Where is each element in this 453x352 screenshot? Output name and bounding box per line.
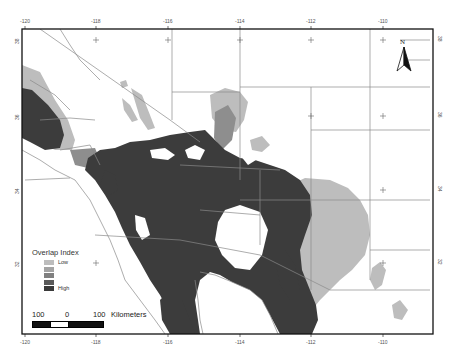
legend-item: High xyxy=(44,286,100,292)
legend-item xyxy=(44,280,100,286)
legend-swatch xyxy=(44,260,54,265)
legend-swatch xyxy=(44,267,54,272)
scale-unit: Kilometers xyxy=(111,310,146,319)
scale-bar: 100 0 100 Kilometers xyxy=(32,310,162,328)
north-label: N xyxy=(400,38,405,46)
lon-tick-label: -110 xyxy=(378,18,388,24)
scale-label-zero: 0 xyxy=(65,310,69,319)
legend-title: Overlap Index xyxy=(32,248,100,257)
lat-tick-label: 32 xyxy=(14,261,20,267)
legend-swatch xyxy=(44,286,54,291)
lon-tick-label: -116 xyxy=(163,18,173,24)
scale-label-right: 100 xyxy=(93,310,106,319)
legend-item xyxy=(44,267,100,273)
lat-tick-label: 34 xyxy=(14,188,20,194)
lon-tick-label: -112 xyxy=(306,339,316,345)
lon-tick-label: -114 xyxy=(235,339,245,345)
lon-tick-label: -112 xyxy=(306,18,316,24)
lat-tick-label: 36 xyxy=(14,114,20,120)
legend-label: Low xyxy=(58,260,68,265)
lon-tick-label: -118 xyxy=(91,339,101,345)
lon-tick-label: -120 xyxy=(20,339,30,345)
north-arrow-icon xyxy=(395,47,413,73)
legend-label: High xyxy=(58,286,69,291)
legend-swatch xyxy=(44,280,54,285)
lon-tick-label: -116 xyxy=(163,339,173,345)
lat-tick-label: 32 xyxy=(437,259,443,265)
lat-tick-label: 38 xyxy=(14,38,20,44)
legend: Overlap Index Low High xyxy=(30,248,100,293)
lat-tick-label: 36 xyxy=(437,112,443,118)
lat-tick-label: 34 xyxy=(437,186,443,192)
legend-item: Low xyxy=(44,260,100,266)
lon-tick-label: -120 xyxy=(20,18,30,24)
legend-swatch xyxy=(44,273,54,278)
lon-tick-label: -114 xyxy=(235,18,245,24)
lat-tick-label: 38 xyxy=(437,36,443,42)
map-canvas xyxy=(0,0,453,352)
north-arrow: N xyxy=(395,38,413,74)
lon-tick-label: -118 xyxy=(91,18,101,24)
legend-item xyxy=(44,273,100,279)
scale-bar-graphic xyxy=(32,321,104,328)
lon-tick-label: -110 xyxy=(378,339,388,345)
scale-label-left: 100 xyxy=(32,310,45,319)
